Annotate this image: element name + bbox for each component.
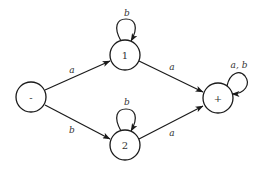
loop-q1: b <box>117 8 136 41</box>
automaton-diagram: a b a a b b a, b - 1 2 + <box>0 0 259 169</box>
node-label-start: - <box>29 92 32 103</box>
node-q1: 1 <box>110 40 140 70</box>
loop-q2: b <box>117 97 136 131</box>
loop-label-accept: a, b <box>231 60 248 70</box>
edge-start-to-q2: b <box>45 105 110 139</box>
edge-label-start-q1: a <box>69 65 74 75</box>
edge-q2-to-accept: a <box>139 106 203 139</box>
edge-label-start-q2: b <box>69 125 75 135</box>
node-label-accept: + <box>214 93 222 104</box>
edge-q1-to-accept: a <box>139 61 203 92</box>
node-label-q1: 1 <box>122 50 128 61</box>
node-q2: 2 <box>110 130 140 160</box>
edge-label-q1-accept: a <box>169 62 174 72</box>
loop-label-q2: b <box>124 97 130 107</box>
node-label-q2: 2 <box>122 140 128 151</box>
edge-start-to-q1: a <box>45 61 110 90</box>
edge-label-q2-accept: a <box>169 128 174 138</box>
loop-label-q1: b <box>124 8 130 18</box>
node-accept: + <box>203 83 233 113</box>
node-start: - <box>16 82 46 112</box>
